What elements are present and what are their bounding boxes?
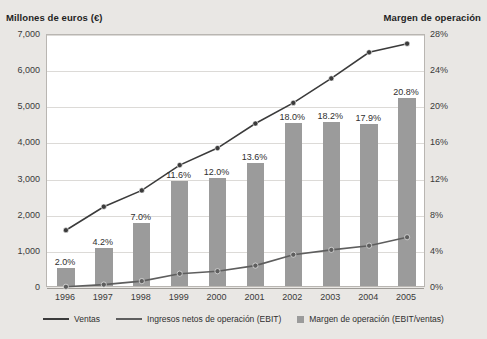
x-axis-tick-label: 2002 [282, 292, 302, 302]
data-point-marker [139, 188, 144, 193]
data-point-marker [367, 243, 372, 248]
data-point-marker [329, 247, 334, 252]
bar-data-label: 17.9% [355, 113, 381, 123]
y-axis-tick-label: 5,000 [2, 101, 40, 111]
data-point-marker [253, 263, 258, 268]
plot-area [46, 34, 425, 287]
y2-axis-tick-label: 8% [430, 210, 443, 220]
y2-axis-tick-label: 12% [430, 174, 448, 184]
x-axis-tick-label: 2003 [320, 292, 340, 302]
y2-axis-tick-label: 24% [430, 65, 448, 75]
data-point-marker [63, 228, 68, 233]
data-point-marker [101, 282, 106, 287]
data-point-marker [101, 204, 106, 209]
bar-data-label: 12.0% [204, 167, 230, 177]
y-axis-tick-label: 7,000 [2, 29, 40, 39]
data-point-marker [139, 279, 144, 284]
legend-label: Margen de operación (EBIT/ventas) [309, 314, 444, 324]
x-axis-tick-label: 1996 [55, 292, 75, 302]
legend-item[interactable]: Ventas [43, 314, 100, 324]
legend-label: Ingresos netos de operación (EBIT) [147, 314, 281, 324]
data-point-marker [177, 271, 182, 276]
data-point-marker [291, 252, 296, 257]
data-point-marker [63, 284, 68, 289]
bar-data-label: 20.8% [393, 87, 419, 97]
y-axis-tick-label: 3,000 [2, 174, 40, 184]
y2-axis-tick-label: 4% [430, 246, 443, 256]
data-point-marker [215, 269, 220, 274]
data-point-marker [177, 163, 182, 168]
chart-figure: Millones de euros (€) Margen de operació… [0, 0, 487, 339]
x-axis-tick-label: 2005 [396, 292, 416, 302]
data-point-marker [367, 50, 372, 55]
y-axis-tick-label: 2,000 [2, 210, 40, 220]
legend-line-icon [116, 318, 142, 320]
data-point-marker [215, 146, 220, 151]
legend-swatch-icon [297, 316, 304, 323]
data-point-marker [329, 76, 334, 81]
line-series [47, 35, 426, 288]
bar-data-label: 18.2% [317, 111, 343, 121]
y2-axis-tick-label: 20% [430, 101, 448, 111]
x-axis-tick-label: 1997 [93, 292, 113, 302]
line-path [66, 44, 407, 231]
y2-axis-tick-label: 0% [430, 282, 443, 292]
bar-data-label: 13.6% [242, 152, 268, 162]
legend-line-icon [43, 318, 69, 320]
right-axis-title: Margen de operación [384, 12, 481, 23]
gridline [47, 288, 424, 289]
bar-data-label: 2.0% [55, 257, 76, 267]
y-axis-tick-label: 6,000 [2, 65, 40, 75]
legend-label: Ventas [74, 314, 100, 324]
legend-item[interactable]: Ingresos netos de operación (EBIT) [116, 314, 281, 324]
y-axis-tick-label: 0 [2, 282, 40, 292]
data-point-marker [291, 100, 296, 105]
bar-data-label: 18.0% [280, 112, 306, 122]
data-point-marker [405, 41, 410, 46]
bar-data-label: 7.0% [130, 212, 151, 222]
bar-data-label: 4.2% [93, 237, 114, 247]
x-axis-tick-label: 2001 [244, 292, 264, 302]
x-axis-tick-label: 2004 [358, 292, 378, 302]
y-axis-tick-label: 1,000 [2, 246, 40, 256]
left-axis-title: Millones de euros (€) [6, 12, 103, 23]
data-point-marker [253, 121, 258, 126]
y-axis-tick-label: 4,000 [2, 137, 40, 147]
chart-legend: VentasIngresos netos de operación (EBIT)… [0, 308, 487, 330]
legend-item[interactable]: Margen de operación (EBIT/ventas) [297, 314, 444, 324]
y2-axis-tick-label: 28% [430, 29, 448, 39]
line-path [66, 237, 407, 287]
x-axis-tick-label: 2000 [207, 292, 227, 302]
y2-axis-tick-label: 16% [430, 137, 448, 147]
bar-data-label: 11.6% [166, 170, 191, 180]
x-axis-tick-label: 1998 [131, 292, 151, 302]
data-point-marker [405, 235, 410, 240]
x-axis-tick-label: 1999 [169, 292, 189, 302]
